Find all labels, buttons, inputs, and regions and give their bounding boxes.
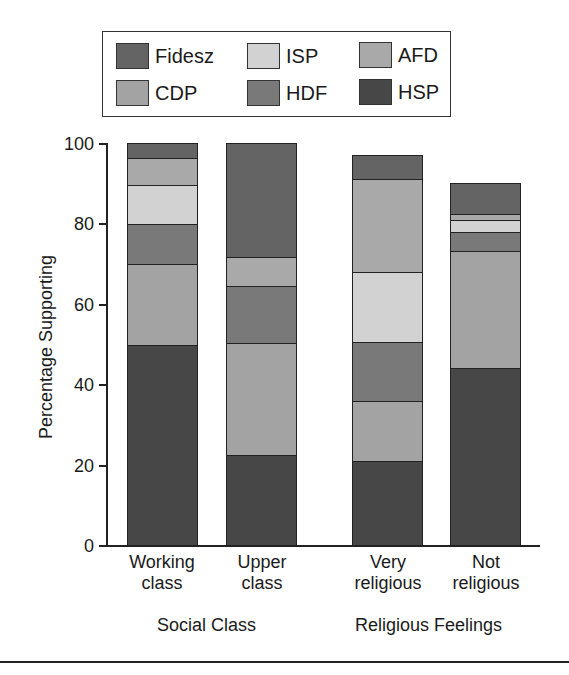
bar-upper-class [226, 143, 297, 546]
x-category-label-very-religious: Very religious [333, 552, 443, 594]
bar-segment-afd [127, 158, 198, 185]
y-tick [99, 465, 106, 467]
y-tick-label: 20 [74, 457, 94, 475]
bar-segment-cdp [127, 264, 198, 345]
label-line: Not [431, 552, 541, 573]
legend-item-cdp: CDP [116, 79, 197, 107]
legend-label: HSP [398, 82, 439, 102]
y-tick [99, 223, 106, 225]
bar-segment-afd [226, 257, 297, 286]
legend-swatch-cdp [116, 80, 149, 106]
bar-segment-hdf [226, 286, 297, 343]
bar-segment-hsp [226, 455, 297, 546]
x-group-label-religious-feelings: Religious Feelings [355, 616, 502, 634]
x-category-label-upper-class: Upper class [207, 552, 317, 594]
legend-label: AFD [398, 45, 438, 65]
bar-very-religious [352, 155, 423, 546]
bar-segment-isp [127, 185, 198, 223]
bar-segment-fidesz [127, 143, 198, 158]
bar-segment-hdf [352, 342, 423, 401]
legend-label: HDF [286, 83, 327, 103]
y-tick-label: 80 [74, 215, 94, 233]
y-tick [99, 384, 106, 386]
label-line: religious [333, 573, 443, 594]
y-tick [99, 143, 106, 145]
bar-segment-cdp [226, 343, 297, 455]
y-axis-line [106, 143, 108, 547]
chart-legend: Fidesz ISP AFD CDP HDF HSP [102, 31, 451, 117]
bar-segment-cdp [352, 401, 423, 461]
x-category-label-working-class: Working class [107, 552, 217, 594]
label-line: class [107, 573, 217, 594]
legend-item-hdf: HDF [247, 79, 327, 107]
y-tick-label: 0 [84, 537, 94, 555]
bar-segment-hsp [450, 368, 521, 546]
legend-item-fidesz: Fidesz [116, 42, 214, 70]
legend-swatch-isp [247, 43, 280, 69]
legend-item-hsp: HSP [359, 78, 439, 106]
y-axis-title: Percentage Supporting [36, 255, 57, 439]
label-line: Very [333, 552, 443, 573]
bar-segment-fidesz [450, 183, 521, 214]
bar-segment-isp [352, 272, 423, 341]
legend-swatch-hsp [359, 79, 392, 105]
y-tick [99, 545, 106, 547]
label-line: religious [431, 573, 541, 594]
label-line: Working [107, 552, 217, 573]
bottom-divider-rule [0, 661, 569, 663]
bar-segment-fidesz [352, 155, 423, 179]
legend-swatch-hdf [247, 80, 280, 106]
legend-label: ISP [286, 46, 318, 66]
legend-swatch-fidesz [116, 43, 149, 69]
bar-not-religious [450, 183, 521, 546]
label-line: Upper [207, 552, 317, 573]
x-category-label-not-religious: Not religious [431, 552, 541, 594]
bar-segment-cdp [450, 251, 521, 368]
legend-item-afd: AFD [359, 41, 438, 69]
y-tick [99, 304, 106, 306]
legend-swatch-afd [359, 42, 392, 68]
bar-segment-hsp [127, 345, 198, 547]
y-tick-label: 60 [74, 296, 94, 314]
bar-working-class [127, 143, 198, 546]
x-group-label-social-class: Social Class [157, 616, 256, 634]
y-tick-label: 40 [74, 376, 94, 394]
bar-segment-fidesz [226, 143, 297, 257]
bar-segment-hdf [127, 224, 198, 264]
legend-item-isp: ISP [247, 42, 318, 70]
legend-label: Fidesz [155, 46, 214, 66]
plot-area: 0 20 40 60 80 100 [106, 143, 540, 546]
y-tick-label: 100 [64, 135, 94, 153]
legend-label: CDP [155, 83, 197, 103]
label-line: class [207, 573, 317, 594]
bar-segment-afd [352, 179, 423, 272]
bar-segment-hsp [352, 461, 423, 546]
bar-segment-hdf [450, 232, 521, 251]
bar-segment-isp [450, 220, 521, 232]
